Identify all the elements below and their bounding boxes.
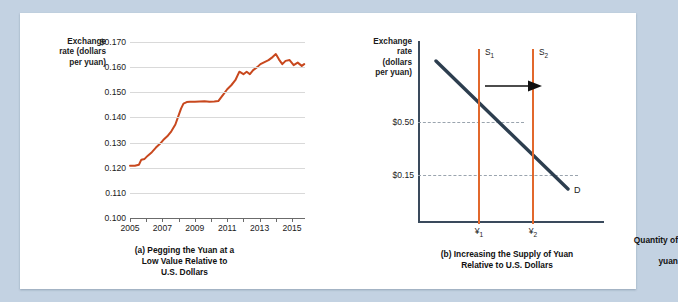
demand-curve xyxy=(418,41,604,223)
panel-a-x-tick-label: 2005 xyxy=(120,223,139,233)
panel-a-data-line xyxy=(130,42,305,218)
panel-a-y-tick-label: 0.120 xyxy=(104,163,126,173)
panel-b-y-label-015: $0.15 xyxy=(392,170,414,180)
supply-curve-2 xyxy=(532,49,534,222)
panel-b-y-label-050: $0.50 xyxy=(392,117,414,127)
panel-a-y-tick-label: $0.170 xyxy=(100,37,126,47)
panel-a-x-tick xyxy=(211,218,212,222)
panel-a-x-tick xyxy=(179,218,180,222)
panel-b-x-axis-title-line-1: Quantity of xyxy=(598,235,678,245)
panel-b-x-label-yuan-2-sub: 2 xyxy=(534,231,538,238)
panel-a-y-tick-label: 0.160 xyxy=(104,62,126,72)
panel-a-caption: (a) Pegging the Yuan at a Low Value Rela… xyxy=(72,245,297,278)
panel-a-y-tick-label: 0.130 xyxy=(104,138,126,148)
panel-a-line-chart: Exchange rate (dollars per yuan) 0.1000.… xyxy=(20,13,340,289)
panel-a-x-tick-label: 2009 xyxy=(185,223,204,233)
panel-a-gridline xyxy=(130,117,305,118)
panel-b-x-label-yuan-1-sub: 1 xyxy=(480,231,484,238)
panel-a-plot-area: 0.1000.1100.1200.1300.1400.1500.160$0.17… xyxy=(130,42,305,218)
panel-a-x-tick xyxy=(260,218,261,222)
figure-card: Exchange rate (dollars per yuan) 0.1000.… xyxy=(20,13,636,289)
panel-a-gridline xyxy=(130,143,305,144)
panel-a-y-axis-title: Exchange rate (dollars per yuan) xyxy=(34,37,106,68)
demand-curve-label: D xyxy=(574,185,581,195)
panel-a-y-tick-label: 0.110 xyxy=(105,188,126,198)
panel-b-caption: (b) Increasing the Supply of Yuan Relati… xyxy=(388,249,626,271)
panel-a-y-tick-label: 0.100 xyxy=(104,213,126,223)
panel-b-x-label-yuan-1: ¥1 xyxy=(475,226,483,238)
panel-a-y-tick-label: 0.140 xyxy=(104,112,126,122)
supply-curve-1-label: S1 xyxy=(485,47,494,59)
panel-a-gridline xyxy=(130,193,305,194)
panel-a-gridline xyxy=(130,67,305,68)
panel-a-caption-line-2: Low Value Relative to xyxy=(72,256,297,267)
panel-a-gridline xyxy=(130,218,305,219)
panel-b-caption-line-1: (b) Increasing the Supply of Yuan xyxy=(388,249,626,260)
supply-curve-1 xyxy=(478,49,480,222)
supply-curve-1-label-sub: 1 xyxy=(491,52,495,59)
x-tick-yuan-1 xyxy=(478,217,480,224)
panel-b-supply-demand-diagram: Exchange rate (dollars per yuan) $0.50 $… xyxy=(340,13,636,289)
panel-a-x-tick-label: 2013 xyxy=(250,223,269,233)
panel-b-y-axis-title: Exchange rate (dollars per yuan) xyxy=(350,37,412,79)
panel-a-x-tick xyxy=(146,218,147,222)
panel-b-plot-area: $0.50 $0.15 S1 S2 D ¥1 ¥2 xyxy=(418,41,604,223)
x-tick-yuan-2 xyxy=(532,217,534,224)
supply-curve-2-label: S2 xyxy=(539,47,548,59)
panel-a-x-tick-label: 2015 xyxy=(282,223,301,233)
panel-a-x-tick xyxy=(130,218,131,222)
supply-curve-2-label-sub: 2 xyxy=(545,52,549,59)
panel-a-x-tick xyxy=(227,218,228,222)
panel-a-x-tick xyxy=(162,218,163,222)
panel-a-y-tick-label: 0.150 xyxy=(104,87,126,97)
panel-a-gridline xyxy=(130,168,305,169)
panel-a-gridline xyxy=(130,92,305,93)
panel-a-caption-line-1: (a) Pegging the Yuan at a xyxy=(72,245,297,256)
panel-a-x-tick xyxy=(243,218,244,222)
panel-a-x-tick xyxy=(276,218,277,222)
panel-a-x-tick xyxy=(292,218,293,222)
panel-a-gridline xyxy=(130,42,305,43)
panel-a-x-tick xyxy=(195,218,196,222)
panel-b-caption-line-2: Relative to U.S. Dollars xyxy=(388,260,626,271)
panel-a-x-tick-label: 2011 xyxy=(218,223,236,233)
panel-a-x-tick-label: 2007 xyxy=(153,223,172,233)
panel-a-caption-line-3: U.S. Dollars xyxy=(72,267,297,278)
supply-shift-arrow-icon xyxy=(484,78,546,94)
panel-b-x-label-yuan-2: ¥2 xyxy=(529,226,537,238)
